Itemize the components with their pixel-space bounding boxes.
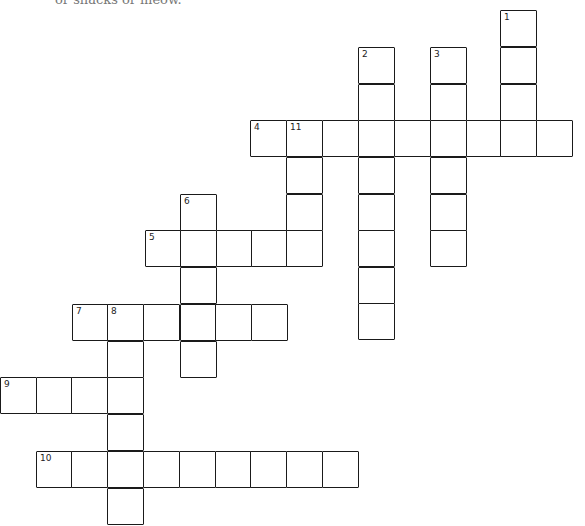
crossword-cell-clue-10[interactable]: 10 [36, 451, 73, 488]
crossword-cell[interactable] [286, 157, 323, 194]
crossword-cell-clue-5[interactable]: 5 [145, 230, 182, 267]
crossword-cell[interactable] [250, 451, 287, 488]
crossword-cell[interactable] [107, 414, 144, 451]
crossword-cell[interactable] [358, 120, 395, 157]
crossword-cell[interactable] [143, 304, 180, 341]
crossword-cell[interactable] [430, 84, 467, 121]
crossword-cell[interactable] [215, 304, 252, 341]
crossword-cell[interactable] [215, 451, 252, 488]
clue-number: 10 [40, 454, 51, 463]
crossword-cell[interactable] [71, 451, 108, 488]
crossword-cell-clue-9[interactable]: 9 [0, 377, 37, 414]
crossword-cell[interactable] [286, 230, 323, 267]
clue-number: 4 [254, 123, 260, 132]
crossword-grid: 1234116578910 [0, 0, 585, 526]
crossword-cell[interactable] [500, 84, 537, 121]
crossword-cell[interactable] [216, 230, 253, 267]
crossword-cell[interactable] [180, 304, 217, 341]
crossword-cell[interactable] [286, 451, 323, 488]
crossword-cell[interactable] [358, 267, 395, 304]
crossword-cell[interactable] [358, 157, 395, 194]
crossword-cell[interactable] [71, 377, 108, 414]
crossword-cell[interactable] [322, 120, 359, 157]
crossword-cell[interactable] [36, 377, 73, 414]
crossword-cell-clue-4[interactable]: 4 [250, 120, 287, 157]
crossword-cell[interactable] [466, 120, 503, 157]
crossword-cell[interactable] [430, 194, 467, 231]
crossword-cell[interactable] [107, 377, 144, 414]
crossword-cell[interactable] [430, 230, 467, 267]
crossword-cell[interactable] [251, 304, 288, 341]
crossword-cell[interactable] [430, 157, 467, 194]
crossword-cell[interactable] [180, 230, 217, 267]
clue-number: 3 [434, 50, 440, 59]
crossword-cell[interactable] [358, 194, 395, 231]
crossword-cell[interactable] [358, 303, 395, 340]
crossword-cell[interactable] [394, 120, 431, 157]
crossword-cell-clue-1[interactable]: 1 [500, 10, 537, 47]
clue-number: 8 [111, 307, 117, 316]
crossword-cell[interactable] [322, 451, 359, 488]
crossword-cell-clue-7[interactable]: 7 [72, 304, 109, 341]
crossword-cell[interactable] [286, 194, 323, 231]
crossword-cell[interactable] [143, 451, 180, 488]
crossword-cell[interactable] [536, 120, 573, 157]
clue-number: 9 [4, 380, 10, 389]
clue-number: 11 [290, 123, 301, 132]
crossword-cell[interactable] [500, 120, 537, 157]
clue-number: 6 [184, 197, 190, 206]
crossword-cell[interactable] [180, 267, 217, 304]
crossword-cell[interactable] [107, 451, 144, 488]
crossword-cell[interactable] [180, 341, 217, 378]
crossword-cell[interactable] [430, 120, 467, 157]
crossword-cell[interactable] [500, 47, 537, 84]
crossword-cell[interactable] [107, 341, 144, 378]
crossword-cell-clue-6[interactable]: 6 [180, 194, 217, 231]
crossword-cell-clue-11[interactable]: 11 [286, 120, 323, 157]
crossword-cell-clue-3[interactable]: 3 [430, 47, 467, 84]
crossword-cell[interactable] [251, 230, 288, 267]
clue-number: 2 [362, 50, 368, 59]
crossword-cell[interactable] [358, 230, 395, 267]
crossword-cell[interactable] [107, 488, 144, 525]
crossword-cell-clue-8[interactable]: 8 [107, 304, 144, 341]
crossword-cell-clue-2[interactable]: 2 [358, 47, 395, 84]
clue-number: 5 [149, 233, 155, 242]
clue-number: 7 [76, 307, 82, 316]
clue-number: 1 [504, 13, 510, 22]
crossword-cell[interactable] [358, 84, 395, 121]
crossword-cell[interactable] [179, 451, 216, 488]
